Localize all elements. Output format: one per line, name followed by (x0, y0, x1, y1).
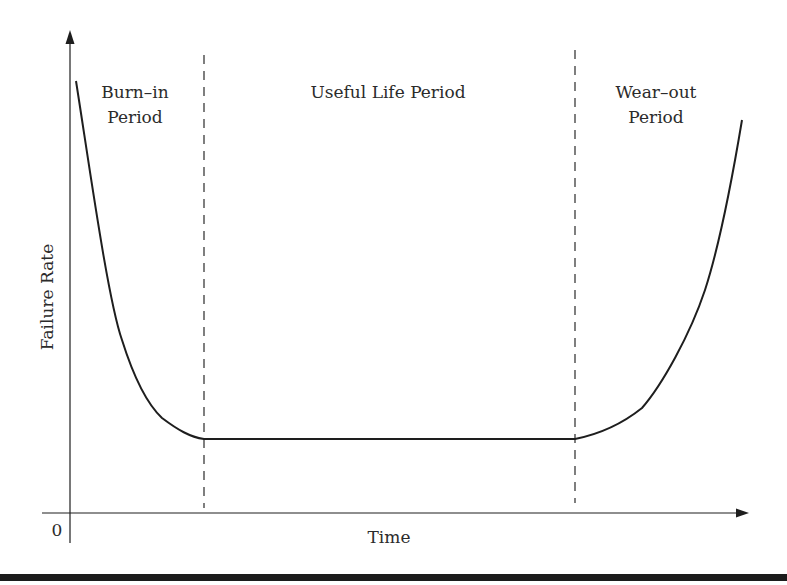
x-axis-arrow-icon (736, 509, 749, 518)
bottom-rule (0, 574, 787, 581)
burn-in-label-line2: Period (107, 107, 163, 127)
useful-life-label: Useful Life Period (310, 82, 465, 102)
x-axis-label: Time (368, 527, 411, 547)
y-axis-label: Failure Rate (37, 244, 57, 350)
y-axis-arrow-icon (66, 30, 75, 44)
burn-in-label-line1: Burn–in (101, 82, 168, 102)
bathtub-curve-figure: Burn–in Period Useful Life Period Wear–o… (0, 0, 787, 585)
wear-out-label-line1: Wear–out (616, 82, 697, 102)
wear-out-label-line2: Period (628, 107, 684, 127)
x-axis (42, 509, 749, 518)
failure-rate-curve (76, 81, 742, 439)
y-axis (66, 30, 75, 543)
origin-label: 0 (52, 520, 63, 540)
